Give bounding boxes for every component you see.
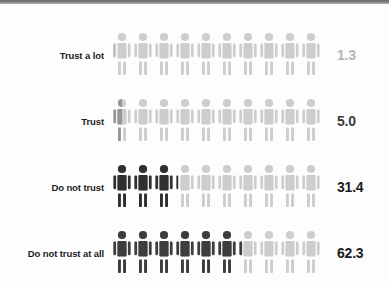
person-icon bbox=[217, 230, 237, 274]
person-icon bbox=[238, 32, 258, 76]
person-icon bbox=[301, 32, 321, 76]
row-value-do-not-trust-at-all: 62.3 bbox=[327, 245, 389, 261]
person-icon bbox=[175, 164, 195, 208]
chart-row: Trust 5.0 bbox=[0, 92, 389, 150]
person-icon-fill bbox=[175, 230, 195, 274]
row-label-trust-a-lot: Trust a lot bbox=[0, 50, 112, 61]
person-icon bbox=[217, 164, 237, 208]
person-icon bbox=[112, 230, 132, 274]
person-icon-fill bbox=[196, 230, 216, 274]
person-icon-fill bbox=[133, 230, 153, 274]
person-icon-fill bbox=[238, 230, 243, 274]
row-value-trust-a-lot: 1.3 bbox=[327, 47, 389, 63]
row-value-trust: 5.0 bbox=[327, 113, 389, 129]
chart-row: Do not trust at all 62.3 bbox=[0, 224, 389, 282]
person-icon bbox=[154, 164, 174, 208]
pictogram-icons-do-not-trust bbox=[112, 164, 327, 210]
person-icon bbox=[133, 230, 153, 274]
person-icon bbox=[280, 230, 300, 274]
person-icon bbox=[133, 32, 153, 76]
person-icon bbox=[280, 32, 300, 76]
person-icon bbox=[196, 164, 216, 208]
person-icon-fill bbox=[112, 230, 132, 274]
person-icon-fill bbox=[112, 98, 122, 142]
person-icon-fill bbox=[112, 32, 115, 76]
person-icon bbox=[196, 32, 216, 76]
person-icon bbox=[175, 230, 195, 274]
person-icon-fill bbox=[133, 164, 153, 208]
pictogram-icons-trust bbox=[112, 98, 327, 144]
chart-row: Do not trust 31.4 bbox=[0, 158, 389, 216]
row-label-trust: Trust bbox=[0, 116, 112, 127]
chart-row: Trust a lot 1.3 bbox=[0, 26, 389, 84]
person-icon bbox=[301, 98, 321, 142]
person-icon bbox=[154, 32, 174, 76]
person-icon bbox=[154, 98, 174, 142]
row-label-do-not-trust-at-all: Do not trust at all bbox=[0, 248, 112, 259]
person-icon bbox=[301, 164, 321, 208]
person-icon-fill bbox=[154, 230, 174, 274]
person-icon bbox=[112, 32, 132, 76]
person-icon bbox=[238, 230, 258, 274]
person-icon bbox=[175, 32, 195, 76]
person-icon-fill bbox=[175, 164, 178, 208]
person-icon bbox=[133, 98, 153, 142]
person-icon bbox=[154, 230, 174, 274]
pictogram-icons-do-not-trust-at-all bbox=[112, 230, 327, 276]
person-icon bbox=[196, 230, 216, 274]
pictogram-chart: Trust a lot 1.3 Trust 5.0 Do not trust 3… bbox=[0, 4, 389, 286]
person-icon bbox=[238, 164, 258, 208]
person-icon bbox=[238, 98, 258, 142]
row-value-do-not-trust: 31.4 bbox=[327, 179, 389, 195]
person-icon-fill bbox=[217, 230, 237, 274]
person-icon bbox=[280, 98, 300, 142]
person-icon bbox=[112, 98, 132, 142]
person-icon bbox=[259, 230, 279, 274]
person-icon bbox=[259, 98, 279, 142]
row-label-do-not-trust: Do not trust bbox=[0, 182, 112, 193]
person-icon bbox=[217, 32, 237, 76]
person-icon-fill bbox=[112, 164, 132, 208]
person-icon bbox=[112, 164, 132, 208]
person-icon bbox=[196, 98, 216, 142]
pictogram-icons-trust-a-lot bbox=[112, 32, 327, 78]
person-icon bbox=[217, 98, 237, 142]
person-icon bbox=[301, 230, 321, 274]
person-icon bbox=[259, 164, 279, 208]
person-icon bbox=[259, 32, 279, 76]
person-icon bbox=[175, 98, 195, 142]
person-icon-fill bbox=[154, 164, 174, 208]
person-icon bbox=[280, 164, 300, 208]
person-icon bbox=[133, 164, 153, 208]
